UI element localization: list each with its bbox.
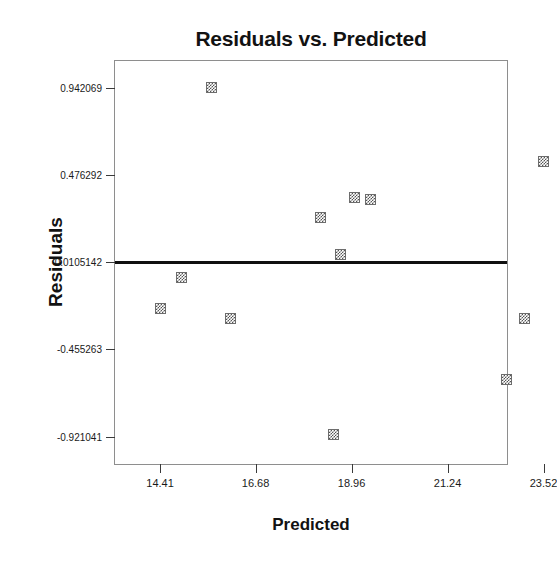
x-tick-label: 14.41 [146,477,174,489]
y-tick-mark [106,175,115,176]
data-point-marker [328,429,339,440]
chart-title: Residuals vs. Predicted [114,27,508,51]
y-tick-mark [106,349,115,350]
data-point-marker [501,374,512,385]
x-tick-mark [544,464,545,473]
data-point-marker [155,303,166,314]
x-tick-label: 18.96 [338,477,366,489]
zero-reference-line [115,261,507,264]
y-tick-label: 0.476292 [60,169,102,180]
y-tick-mark [106,437,115,438]
y-tick-label: 0.942069 [60,82,102,93]
data-point-marker [335,249,346,260]
data-point-marker [206,82,217,93]
data-point-marker [538,156,549,167]
data-point-marker [176,272,187,283]
y-tick-mark [106,88,115,89]
y-axis-label: Residuals [45,217,67,307]
data-point-marker [519,313,530,324]
data-point-marker [225,313,236,324]
x-tick-mark [160,464,161,473]
x-tick-label: 21.24 [434,477,462,489]
x-tick-mark [448,464,449,473]
y-tick-label: -0.455263 [57,344,102,355]
data-point-marker [365,194,376,205]
y-tick-label: -0.921041 [57,431,102,442]
x-axis-label: Predicted [114,515,508,535]
data-point-marker [349,192,360,203]
data-point-marker [315,212,326,223]
x-tick-mark [256,464,257,473]
x-tick-label: 16.68 [242,477,270,489]
x-tick-mark [352,464,353,473]
x-tick-label: 23.52 [530,477,557,489]
plot-area: 0.9420690.4762920.0105142-0.455263-0.921… [114,60,508,465]
y-tick-mark [106,262,115,263]
